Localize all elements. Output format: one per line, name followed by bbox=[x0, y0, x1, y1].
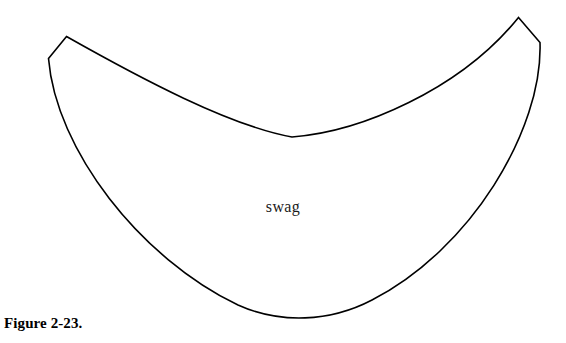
swag-figure-drawing bbox=[0, 0, 566, 343]
swag-text-label: swag bbox=[0, 198, 566, 216]
swag-outline-path bbox=[49, 18, 541, 318]
figure-caption: Figure 2-23. bbox=[4, 315, 82, 332]
